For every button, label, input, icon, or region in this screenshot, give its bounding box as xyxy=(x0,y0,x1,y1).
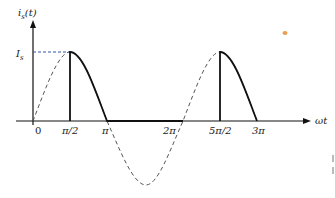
x-axis-label: ωt xyxy=(315,115,328,126)
peak-label: Is xyxy=(15,48,24,62)
current-pulse-2 xyxy=(220,52,257,121)
tick-pi-over-2: π/2 xyxy=(61,125,78,136)
source-sine-dashed xyxy=(33,52,257,185)
tick-2pi: 2π xyxy=(162,125,176,136)
tick-pi: π xyxy=(101,125,109,136)
current-pulse-1 xyxy=(70,52,183,121)
y-axis-arrow-icon xyxy=(30,20,36,28)
stray-dot xyxy=(283,31,288,35)
current-waveform-diagram: is(t) Is ωt 0 π/2 π 2π 5π/2 3π xyxy=(0,0,335,198)
tick-5pi-over-2: 5π/2 xyxy=(209,125,232,136)
y-axis-label: is(t) xyxy=(18,7,37,21)
tick-0: 0 xyxy=(35,125,41,136)
tick-3pi: 3π xyxy=(252,125,265,136)
x-axis-arrow-icon xyxy=(303,118,311,124)
